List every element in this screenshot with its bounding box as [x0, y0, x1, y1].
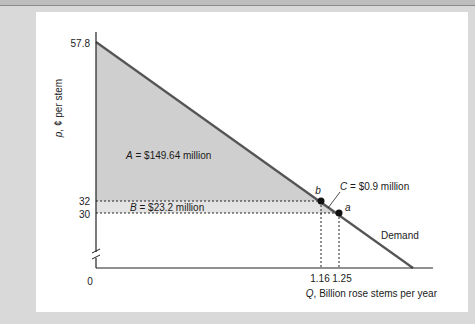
- area-a-label: A = $149.64 million: [125, 150, 211, 161]
- y-axis-title: p, ¢ per stem: [53, 79, 64, 138]
- y-tick-30: 30: [79, 209, 91, 220]
- y-tick-57-8: 57.8: [71, 38, 91, 49]
- point-b-label: b: [315, 185, 321, 196]
- demand-label: Demand: [381, 230, 419, 241]
- point-b: [318, 198, 325, 205]
- area-c-label: C = $0.9 million: [340, 181, 409, 192]
- point-a: [336, 210, 343, 217]
- x-axis-title: Q, Billion rose stems per year: [306, 288, 438, 299]
- x-tick-0: 0: [87, 276, 93, 287]
- point-a-label: a: [345, 202, 351, 213]
- demand-chart: p, ¢ per stem 57.8 32 30 0 1.16 1.25 Q, …: [0, 0, 475, 324]
- x-tick-1-16: 1.16: [310, 273, 330, 284]
- area-b-label: B = $23.2 million: [130, 202, 204, 213]
- c-leader-line: [328, 192, 340, 208]
- x-tick-1-25: 1.25: [332, 273, 352, 284]
- y-tick-32: 32: [79, 196, 91, 207]
